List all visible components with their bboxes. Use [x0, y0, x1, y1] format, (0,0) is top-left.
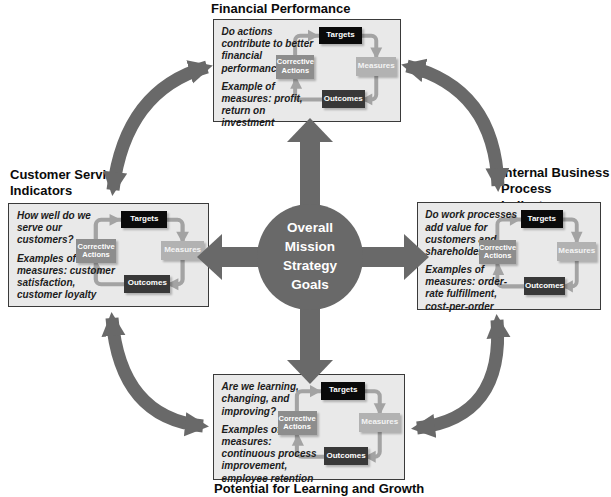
corrective-actions-box: Corrective Actions [276, 55, 314, 79]
ring-arrow-top-left [113, 67, 207, 190]
ring-arrow-bottom-left [112, 318, 203, 426]
targets-box: Targets [321, 382, 365, 400]
corrective-actions-box: Corrective Actions [479, 240, 516, 265]
targets-box: Targets [121, 211, 167, 229]
outcomes-box: Outcomes [524, 277, 566, 296]
mission-line-1: Overall [287, 219, 333, 238]
financial-examples: Example of measures: profit, return on i… [221, 81, 316, 130]
customer-panel-title: Customer Service Indicators [10, 167, 122, 200]
internal-examples: Examples of measures: order-rate fulfill… [425, 264, 518, 313]
corrective-actions-box: Corrective Actions [76, 239, 117, 263]
corrective-actions-box: Corrective Actions [278, 411, 317, 435]
ring-arrow-top-right [407, 66, 498, 186]
outcomes-box: Outcomes [124, 275, 170, 293]
outcomes-box: Outcomes [322, 90, 365, 108]
balanced-scorecard-diagram: Financial Performance Customer Service I… [0, 0, 611, 497]
financial-performance-panel: Do actions contribute to better financia… [213, 19, 401, 122]
customer-service-panel: How well do we serve our customers? Exam… [8, 203, 209, 307]
measures-box: Measures [359, 413, 400, 432]
targets-box: Targets [521, 210, 563, 229]
measures-box: Measures [161, 241, 204, 260]
mission-line-4: Goals [291, 276, 329, 295]
outcomes-box: Outcomes [324, 447, 368, 465]
mission-line-2: Mission [285, 238, 335, 257]
learning-panel-text: Are we learning, changing, and improving… [222, 381, 319, 491]
learning-growth-panel: Are we learning, changing, and improving… [213, 374, 405, 480]
measures-box: Measures [557, 242, 596, 262]
mission-circle-label: Overall Mission Strategy Goals [257, 204, 363, 310]
measures-box: Measures [356, 57, 396, 76]
targets-box: Targets [319, 27, 362, 45]
ring-arrow-bottom-right [417, 320, 498, 428]
internal-business-panel: Do work processes add value for customer… [417, 202, 601, 310]
mission-line-3: Strategy [283, 257, 337, 276]
financial-panel-title: Financial Performance [211, 1, 431, 17]
financial-panel-text: Do actions contribute to better financia… [221, 26, 316, 136]
